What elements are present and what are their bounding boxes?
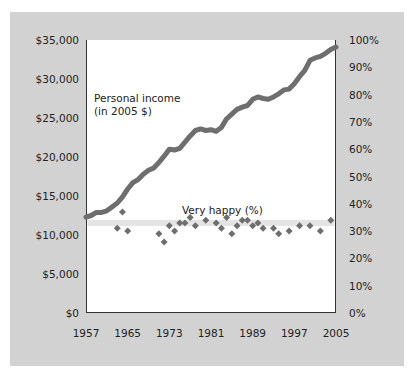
income-label-line2: (in 2005 $) (94, 105, 180, 118)
income-label-line1: Personal income (94, 92, 180, 105)
income-line (86, 47, 336, 217)
income-annotation: Personal income (in 2005 $) (94, 92, 180, 118)
chart-graphics (0, 0, 415, 380)
happy-annotation: Very happy (%) (182, 204, 263, 217)
